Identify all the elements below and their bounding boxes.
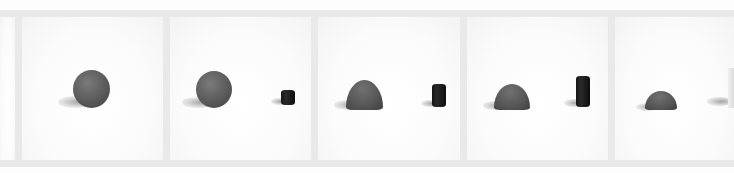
dark-cylinder bbox=[281, 90, 295, 105]
film-frame-2 bbox=[170, 17, 311, 160]
film-strip bbox=[0, 0, 734, 173]
dark-cylinder bbox=[576, 76, 590, 107]
clay-ball-sphere bbox=[73, 70, 110, 108]
film-strip-bottom-border bbox=[0, 160, 734, 167]
frame-divider bbox=[163, 10, 170, 167]
frame-divider bbox=[15, 10, 22, 167]
frame-divider bbox=[608, 10, 615, 167]
frame-divider bbox=[460, 10, 467, 167]
film-frame-5 bbox=[615, 17, 734, 160]
clay-ball-sphere bbox=[196, 71, 232, 108]
dark-cylinder bbox=[432, 84, 446, 107]
frame-divider bbox=[311, 10, 318, 167]
film-strip-top-border bbox=[0, 10, 734, 17]
film-frame-0 bbox=[0, 17, 15, 160]
clipped-cylinder-edge bbox=[728, 68, 734, 108]
